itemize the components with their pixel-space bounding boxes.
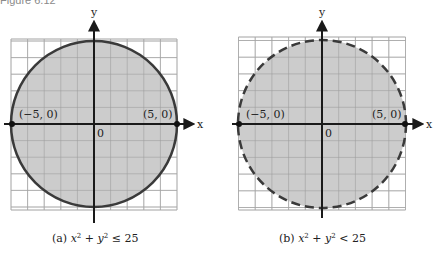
point-label-5-0: (5, 0) <box>372 108 402 121</box>
point-neg5-0 <box>236 121 242 127</box>
figure-canvas: x y (−5, 0) (5, 0) 0 (a) x2 + y2 ≤ 25 x … <box>0 0 433 253</box>
panel-a: x y (−5, 0) (5, 0) 0 (a) x2 + y2 ≤ 25 <box>4 6 204 245</box>
origin-label: 0 <box>325 127 332 140</box>
point-neg5-0 <box>9 121 15 127</box>
panel-b: x y (−5, 0) (5, 0) 0 (b) x2 + y2 < 25 <box>232 6 433 245</box>
point-label-5-0: (5, 0) <box>143 108 173 121</box>
y-axis-label: y <box>90 6 98 19</box>
point-label-neg5-0: (−5, 0) <box>19 108 58 121</box>
point-5-0 <box>174 121 180 127</box>
x-axis-label: x <box>426 118 433 131</box>
point-5-0 <box>402 121 408 127</box>
y-axis-label: y <box>318 6 326 19</box>
origin-label: 0 <box>97 127 104 140</box>
caption-a: (a) x2 + y2 ≤ 25 <box>52 232 138 245</box>
point-label-neg5-0: (−5, 0) <box>246 108 285 121</box>
x-axis-label: x <box>197 118 204 131</box>
caption-b: (b) x2 + y2 < 25 <box>279 232 366 245</box>
